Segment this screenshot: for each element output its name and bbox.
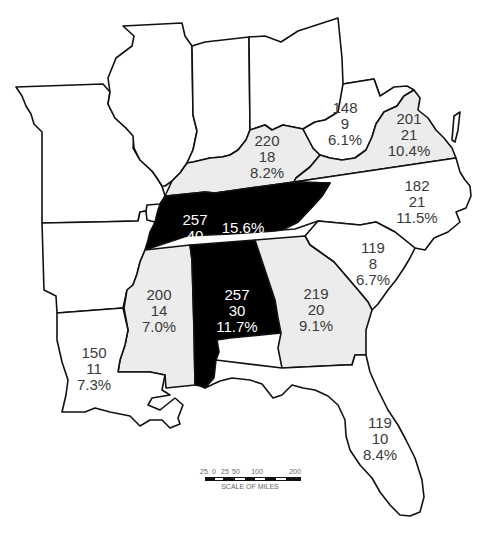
svg-text:11.5%: 11.5% <box>396 209 437 226</box>
svg-text:10.4%: 10.4% <box>388 142 431 159</box>
svg-text:8.2%: 8.2% <box>250 164 284 181</box>
svg-text:100: 100 <box>251 468 263 475</box>
southeast-us-map: 220 18 8.2% 148 9 6.1% 201 21 10.4% 257 … <box>0 0 491 534</box>
svg-text:182: 182 <box>404 177 429 194</box>
svg-text:40: 40 <box>187 227 204 244</box>
svg-text:18: 18 <box>259 148 276 165</box>
svg-text:25: 25 <box>221 468 229 475</box>
svg-text:6.7%: 6.7% <box>356 271 390 288</box>
svg-text:7.0%: 7.0% <box>142 318 176 335</box>
svg-text:257: 257 <box>224 286 249 303</box>
svg-text:50: 50 <box>232 468 240 475</box>
svg-text:7.3%: 7.3% <box>77 376 111 393</box>
svg-text:11: 11 <box>86 360 102 377</box>
svg-text:SCALE OF MILES: SCALE OF MILES <box>221 483 279 490</box>
svg-text:8.4%: 8.4% <box>363 446 397 463</box>
state-indiana <box>187 37 250 163</box>
svg-text:30: 30 <box>229 302 246 319</box>
scale-of-miles: 25 0 25 50 100 200 SCALE OF MILES <box>200 468 301 490</box>
svg-text:8: 8 <box>369 255 377 272</box>
svg-text:150: 150 <box>81 344 106 361</box>
state-florida <box>205 355 424 516</box>
svg-text:11.7%: 11.7% <box>216 318 257 335</box>
svg-text:6.1%: 6.1% <box>328 131 362 148</box>
scale-bar <box>205 477 301 481</box>
svg-text:201: 201 <box>396 110 421 127</box>
svg-text:200: 200 <box>289 468 301 475</box>
svg-text:14: 14 <box>151 302 168 319</box>
svg-text:0: 0 <box>212 468 216 475</box>
svg-text:119: 119 <box>368 414 392 431</box>
svg-text:119: 119 <box>361 239 385 256</box>
svg-text:220: 220 <box>254 132 279 149</box>
svg-text:21: 21 <box>401 126 418 143</box>
svg-text:10: 10 <box>372 430 389 447</box>
svg-text:9.1%: 9.1% <box>299 317 333 334</box>
svg-text:257: 257 <box>182 211 207 228</box>
svg-text:219: 219 <box>303 285 328 302</box>
svg-text:200: 200 <box>146 286 171 303</box>
svg-text:9: 9 <box>341 115 349 132</box>
svg-text:20: 20 <box>308 301 325 318</box>
svg-text:25: 25 <box>200 468 208 475</box>
svg-text:21: 21 <box>409 193 426 210</box>
svg-text:15.6%: 15.6% <box>222 219 265 236</box>
delmarva-peninsula <box>452 112 460 142</box>
svg-text:148: 148 <box>332 99 357 116</box>
